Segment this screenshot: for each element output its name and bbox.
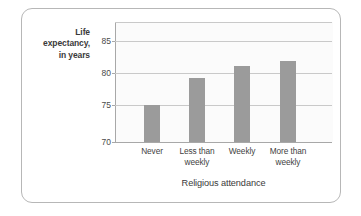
y-axis-title: Life expectancy, in years: [28, 27, 90, 61]
x-axis-title: Religious attendance: [115, 178, 332, 188]
bar-chart: Life expectancy, in years 85 80 75 70 Ne…: [0, 0, 361, 216]
y-tick-label-75: 75: [91, 100, 111, 110]
y-tick-mark-80: [112, 73, 115, 74]
y-tick-mark-75: [112, 105, 115, 106]
gridline-70-baseline: [115, 142, 332, 143]
bar-less-than-weekly: [189, 78, 205, 142]
y-tick-mark-85: [112, 41, 115, 42]
gridline-85: [115, 41, 332, 42]
x-tick-label-more-than-weekly-line-1: More than: [261, 146, 315, 157]
bar-never: [144, 105, 160, 142]
bar-more-than-weekly: [280, 61, 296, 142]
plot-top-border: [115, 22, 332, 23]
x-tick-label-more-than-weekly: More than weekly: [261, 146, 315, 167]
x-tick-label-less-than-weekly-line-2: weekly: [170, 157, 224, 168]
x-tick-label-more-than-weekly-line-2: weekly: [261, 157, 315, 168]
y-tick-mark-70: [112, 142, 115, 143]
y-axis-title-line-3: in years: [28, 50, 90, 61]
bar-weekly: [234, 66, 250, 142]
y-tick-label-85: 85: [91, 36, 111, 46]
y-tick-label-80: 80: [91, 68, 111, 78]
y-tick-label-70: 70: [91, 137, 111, 147]
gridline-80: [115, 73, 332, 74]
y-axis-title-line-1: Life: [28, 27, 90, 38]
y-axis-title-line-2: expectancy,: [28, 38, 90, 49]
